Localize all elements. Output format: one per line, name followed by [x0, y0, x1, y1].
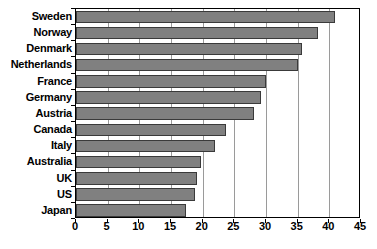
category-label-us: US [0, 186, 72, 202]
y-tickmark [71, 73, 75, 74]
bar-row [76, 122, 359, 138]
x-tick-label-45: 45 [354, 220, 366, 232]
bar-row [76, 41, 359, 57]
category-label-netherlands: Netherlands [0, 56, 72, 72]
bar-row [76, 106, 359, 122]
bar-france [76, 75, 266, 88]
y-tickmark [71, 218, 75, 219]
bar-japan [76, 204, 186, 217]
bar-netherlands [76, 59, 298, 72]
bar-sweden [76, 11, 335, 24]
y-tickmark [71, 56, 75, 57]
bar-germany [76, 91, 261, 104]
category-label-japan: Japan [0, 202, 72, 218]
category-label-norway: Norway [0, 24, 72, 40]
category-label-italy: Italy [0, 137, 72, 153]
bar-australia [76, 156, 201, 169]
bar-austria [76, 107, 254, 120]
category-label-australia: Australia [0, 153, 72, 169]
y-tickmark [71, 105, 75, 106]
x-tick-label-25: 25 [227, 220, 239, 232]
y-tickmark [71, 137, 75, 138]
y-tickmark [71, 170, 75, 171]
bar-denmark [76, 43, 302, 56]
bar-row [76, 154, 359, 170]
x-tick-label-0: 0 [72, 220, 78, 232]
bar-row [76, 203, 359, 219]
category-label-germany: Germany [0, 89, 72, 105]
y-tickmark [71, 24, 75, 25]
x-tick-label-10: 10 [132, 220, 144, 232]
y-tickmark [71, 153, 75, 154]
x-axis-tick-labels: 051015202530354045 [0, 220, 377, 240]
y-tickmark [71, 40, 75, 41]
bar-us [76, 188, 195, 201]
bar-chart: SwedenNorwayDenmarkNetherlandsFranceGerm… [0, 0, 377, 249]
category-label-canada: Canada [0, 121, 72, 137]
x-tick-label-30: 30 [259, 220, 271, 232]
category-label-denmark: Denmark [0, 40, 72, 56]
y-tickmark [71, 8, 75, 9]
y-tickmark [71, 202, 75, 203]
y-tickmark [71, 89, 75, 90]
category-axis-labels: SwedenNorwayDenmarkNetherlandsFranceGerm… [0, 8, 72, 218]
category-label-uk: UK [0, 170, 72, 186]
x-tick-label-5: 5 [104, 220, 110, 232]
bar-norway [76, 27, 318, 40]
bar-row [76, 187, 359, 203]
x-tick-label-40: 40 [322, 220, 334, 232]
bar-row [76, 138, 359, 154]
bar-row [76, 9, 359, 25]
bar-row [76, 57, 359, 73]
bar-row [76, 90, 359, 106]
category-label-austria: Austria [0, 105, 72, 121]
plot-area [75, 8, 360, 218]
bar-row [76, 74, 359, 90]
bar-canada [76, 124, 226, 137]
x-tick-label-20: 20 [196, 220, 208, 232]
x-tick-label-15: 15 [164, 220, 176, 232]
bar-series [76, 9, 359, 217]
y-tickmark [71, 121, 75, 122]
bar-italy [76, 140, 215, 153]
x-tick-label-35: 35 [291, 220, 303, 232]
category-label-france: France [0, 73, 72, 89]
category-label-sweden: Sweden [0, 8, 72, 24]
y-tickmark [71, 186, 75, 187]
bar-uk [76, 172, 197, 185]
bar-row [76, 171, 359, 187]
bar-row [76, 25, 359, 41]
